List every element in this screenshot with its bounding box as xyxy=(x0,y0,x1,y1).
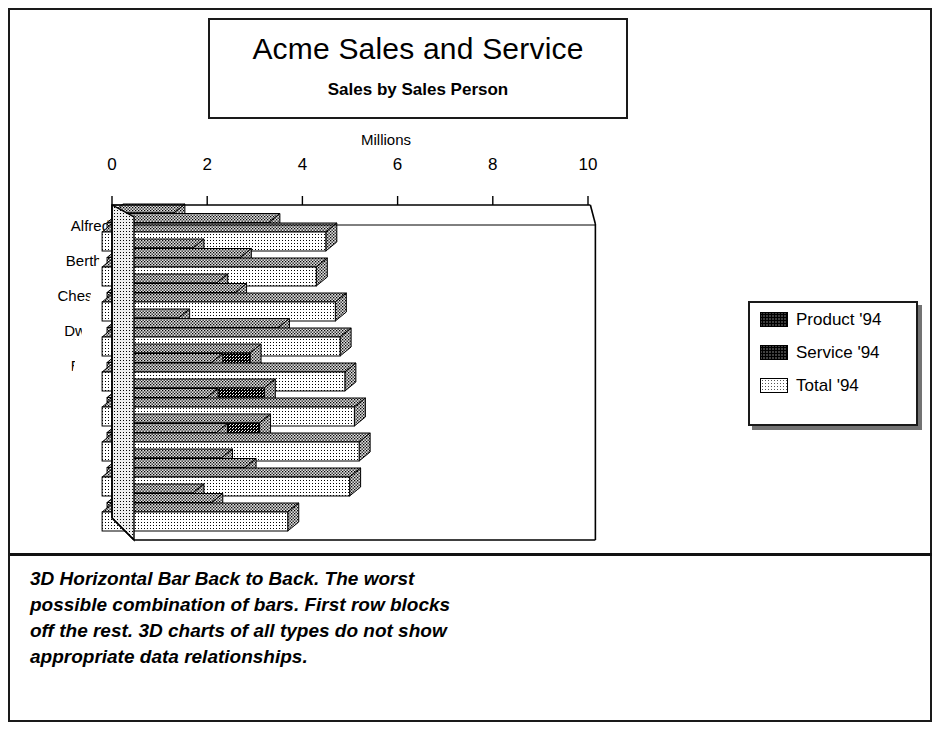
title-box: Acme Sales and Service Sales by Sales Pe… xyxy=(208,18,628,119)
legend-item[interactable]: Total '94 xyxy=(760,369,916,402)
legend-swatch-icon xyxy=(760,378,788,393)
y-category-label: Elmer xyxy=(0,357,110,374)
page-title: Acme Sales and Service xyxy=(210,34,626,64)
y-category-label: Herbert xyxy=(0,462,110,479)
y-category-label: Gerald xyxy=(0,427,110,444)
section-divider xyxy=(10,553,932,556)
y-category-label: Alfred xyxy=(0,217,110,234)
y-category-label: Chester xyxy=(0,287,110,304)
chart-subtitle: Sales by Sales Person xyxy=(210,80,626,100)
y-category-label: Bertha xyxy=(0,252,110,269)
legend-label: Service '94 xyxy=(796,344,880,361)
y-category-label: Dwight xyxy=(0,322,110,339)
legend-label: Total '94 xyxy=(796,377,859,394)
x-tick-label: 6 xyxy=(378,155,418,175)
caption-line: appropriate data relationships. xyxy=(30,644,590,670)
legend-swatch-icon xyxy=(760,312,788,327)
x-axis-title-text: Millions xyxy=(361,131,411,148)
y-category-label: Iggy xyxy=(0,497,110,514)
legend-item[interactable]: Product '94 xyxy=(760,303,916,336)
x-tick-label: 4 xyxy=(282,155,322,175)
caption-line: 3D Horizontal Bar Back to Back. The wors… xyxy=(30,566,590,592)
chart-legend: Product '94Service '94Total '94 xyxy=(748,301,918,426)
y-category-label: Fred xyxy=(0,392,110,409)
caption-line: possible combination of bars. First row … xyxy=(30,592,590,618)
x-tick-label: 8 xyxy=(473,155,513,175)
legend-item[interactable]: Service '94 xyxy=(760,336,916,369)
x-tick-label: 2 xyxy=(187,155,227,175)
x-tick-label: 10 xyxy=(568,155,608,175)
legend-label: Product '94 xyxy=(796,311,881,328)
caption-line: off the rest. 3D charts of all types do … xyxy=(30,618,590,644)
legend-swatch-icon xyxy=(760,345,788,360)
caption: 3D Horizontal Bar Back to Back. The wors… xyxy=(30,566,590,670)
x-axis-title: Millions xyxy=(0,131,942,148)
